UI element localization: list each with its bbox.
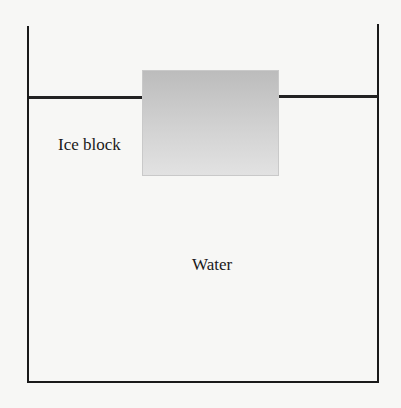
ice-block-label: Ice block bbox=[58, 135, 121, 155]
ice-block bbox=[142, 70, 279, 176]
water-surface-right bbox=[278, 95, 378, 98]
container-bottom bbox=[29, 381, 379, 383]
container-right-wall bbox=[377, 24, 379, 383]
water-label: Water bbox=[192, 255, 232, 275]
water-surface-left bbox=[29, 96, 143, 99]
container-left-wall bbox=[27, 26, 29, 383]
